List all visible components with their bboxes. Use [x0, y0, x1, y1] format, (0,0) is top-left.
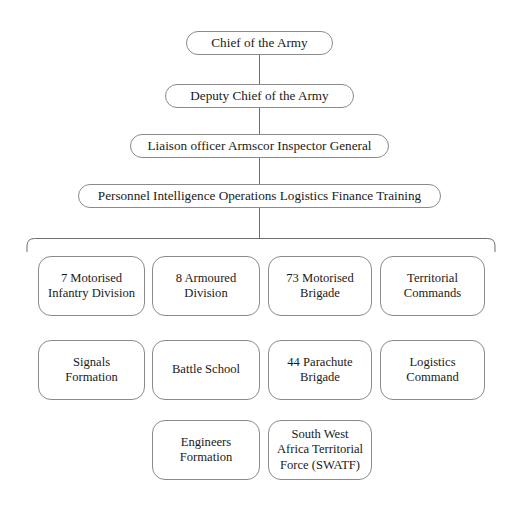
fan-out-bracket [27, 239, 495, 253]
node-unit-engineers-formation[interactable]: Engineers Formation [152, 420, 260, 480]
node-label: Liaison officer Armscor Inspector Genera… [148, 138, 372, 154]
node-label: 44 Parachute Brigade [275, 355, 365, 386]
node-label: Personnel Intelligence Operations Logist… [98, 188, 421, 204]
node-unit-44-parachute-brigade[interactable]: 44 Parachute Brigade [268, 340, 372, 400]
node-label: Battle School [159, 362, 253, 377]
node-label: Signals Formation [45, 355, 138, 386]
node-unit-territorial-commands[interactable]: Territorial Commands [380, 256, 485, 316]
node-deputy-chief-of-the-army[interactable]: Deputy Chief of the Army [165, 84, 354, 108]
node-unit-73-motorised-brigade[interactable]: 73 Motorised Brigade [268, 256, 372, 316]
node-unit-signals-formation[interactable]: Signals Formation [38, 340, 145, 400]
node-liaison-officer-armscor-inspector-general[interactable]: Liaison officer Armscor Inspector Genera… [130, 134, 389, 158]
node-label: 7 Motorised Infantry Division [45, 271, 138, 302]
node-chief-of-the-army[interactable]: Chief of the Army [186, 31, 333, 55]
node-label: 8 Armoured Division [159, 271, 253, 302]
node-unit-battle-school[interactable]: Battle School [152, 340, 260, 400]
node-unit-logistics-command[interactable]: Logistics Command [380, 340, 485, 400]
node-unit-7-motorised-infantry-division[interactable]: 7 Motorised Infantry Division [38, 256, 145, 316]
org-chart-canvas: Chief of the Army Deputy Chief of the Ar… [0, 0, 517, 508]
node-label: Engineers Formation [159, 435, 253, 466]
node-label: Territorial Commands [387, 271, 478, 302]
node-unit-south-west-africa-territorial-force[interactable]: South West Africa Territorial Force (SWA… [268, 420, 372, 480]
node-staff-divisions[interactable]: Personnel Intelligence Operations Logist… [78, 184, 441, 208]
node-label: Deputy Chief of the Army [190, 88, 328, 104]
node-label: South West Africa Territorial Force (SWA… [275, 427, 365, 473]
node-label: 73 Motorised Brigade [275, 271, 365, 302]
node-label: Logistics Command [387, 355, 478, 386]
node-label: Chief of the Army [211, 35, 307, 51]
node-unit-8-armoured-division[interactable]: 8 Armoured Division [152, 256, 260, 316]
